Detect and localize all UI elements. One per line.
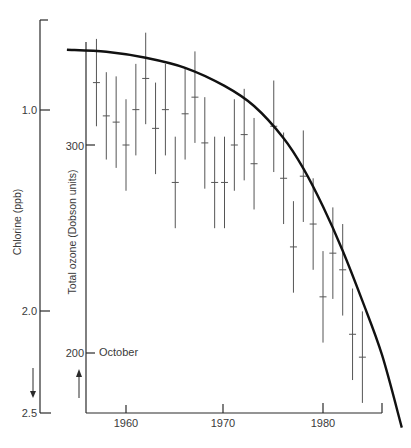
down-arrow-icon <box>30 368 36 398</box>
year-axis <box>86 403 382 413</box>
chlorine-axis <box>40 20 51 413</box>
chlorine-tick-2.0: 2.0 <box>22 305 37 317</box>
ozone-axis <box>86 42 95 413</box>
ozone-axis-title: Total ozone (Dobson units) <box>66 170 78 295</box>
ozone-tick-200: 200 <box>66 347 84 359</box>
up-arrow-icon <box>76 369 82 398</box>
chlorine-tick-1.0: 1.0 <box>22 104 37 116</box>
year-tick-1960: 1960 <box>114 417 138 429</box>
ozone-tick-300: 300 <box>66 140 84 152</box>
october-annotation: October <box>99 346 138 358</box>
chlorine-axis-title: Chlorine (ppb) <box>11 189 23 256</box>
year-tick-1980: 1980 <box>311 417 335 429</box>
year-tick-1970: 1970 <box>211 417 235 429</box>
ozone-chlorine-chart: 1.0 2.0 2.5 Chlorine (ppb) 300 200 Total… <box>0 0 411 448</box>
chlorine-tick-2.5: 2.5 <box>22 407 37 419</box>
